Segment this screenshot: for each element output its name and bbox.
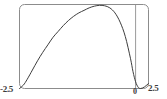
plot-canvas <box>0 0 167 99</box>
x-axis-max-tick-label: 2.5 <box>148 84 158 93</box>
chart-figure: -2.5 0 2.5 <box>0 0 167 99</box>
plot-frame <box>20 5 149 89</box>
x-axis-zero-tick-label: 0 <box>133 88 137 96</box>
x-axis-min-tick-label: -2.5 <box>0 85 13 94</box>
